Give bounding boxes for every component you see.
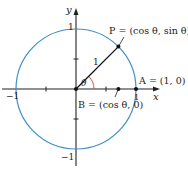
point-origin — [74, 87, 78, 91]
point-A — [134, 87, 138, 91]
radius-label: 1 — [93, 57, 99, 67]
unit-circle-diagram: y x 1 −1 −1 1 1 θ P = (cos θ, sin θ) A =… — [0, 0, 188, 173]
y-axis-arrow-icon — [74, 8, 79, 15]
angle-label: θ — [81, 78, 87, 88]
tick-label-y-pos-one: 1 — [68, 22, 74, 32]
point-B-label: B = (cos θ, 0) — [78, 99, 143, 110]
point-A-label: A = (1, 0) — [138, 75, 185, 86]
tick-label-x-neg-one: −1 — [6, 91, 19, 101]
x-axis-label: x — [153, 91, 159, 102]
point-B — [116, 87, 120, 91]
point-P — [116, 45, 120, 49]
angle-arc — [89, 76, 94, 89]
tick-label-y-neg-one: −1 — [61, 152, 74, 162]
y-axis-label: y — [65, 4, 72, 15]
point-P-label: P = (cos θ, sin θ) — [109, 25, 188, 36]
